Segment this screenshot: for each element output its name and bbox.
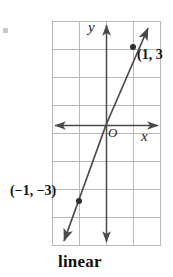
point-marker-neg1-neg3 bbox=[76, 198, 82, 204]
point-label-1-3: (1, 3 bbox=[137, 48, 163, 62]
x-axis-label: x bbox=[141, 129, 148, 144]
origin-label: O bbox=[108, 126, 117, 139]
figure-caption: linear bbox=[58, 252, 102, 272]
point-label-neg1-neg3: (−1, −3) bbox=[10, 184, 56, 198]
point-marker-1-3 bbox=[130, 44, 136, 50]
y-axis-label: y bbox=[88, 20, 95, 35]
linear-function-figure: y x O (1, 3 (−1, −3) linear bbox=[0, 0, 173, 277]
